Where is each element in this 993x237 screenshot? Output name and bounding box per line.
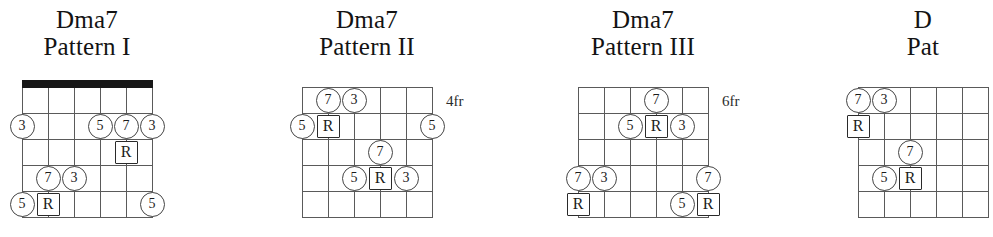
fret-line <box>858 139 989 140</box>
interval-marker[interactable]: 5 <box>140 192 165 217</box>
chord-diagram-1: Dma7Pattern I3573R735R5 <box>0 0 174 237</box>
chord-name: Dma7 <box>0 6 174 33</box>
interval-marker[interactable]: 3 <box>670 114 695 139</box>
interval-marker[interactable]: 3 <box>872 88 897 113</box>
fret-line <box>22 113 153 114</box>
interval-marker[interactable]: 5 <box>618 114 643 139</box>
fret-position-label: 6fr <box>722 93 740 110</box>
fret-line <box>858 87 989 88</box>
fret-position-label: 4fr <box>446 93 464 110</box>
root-marker[interactable]: R <box>697 193 720 216</box>
string-line <box>630 87 631 217</box>
fret-grid: 3573R735R5 <box>22 87 152 217</box>
fret-line <box>578 139 709 140</box>
nut-bar <box>22 80 153 88</box>
fret-line <box>302 87 433 88</box>
root-marker[interactable]: R <box>645 115 668 138</box>
string-line <box>302 87 303 217</box>
pattern-label: Pattern II <box>280 33 454 60</box>
interval-marker[interactable]: 5 <box>290 114 315 139</box>
string-line <box>988 87 989 217</box>
interval-marker[interactable]: 3 <box>10 114 35 139</box>
chord-diagram-4: DPat73R57R <box>836 0 993 237</box>
string-line <box>406 87 407 217</box>
interval-marker[interactable]: 5 <box>10 192 35 217</box>
chord-name: Dma7 <box>556 6 730 33</box>
fret-line <box>22 217 153 218</box>
interval-marker[interactable]: 7 <box>368 140 393 165</box>
root-marker[interactable]: R <box>37 193 60 216</box>
interval-marker[interactable]: 7 <box>696 166 721 191</box>
string-line <box>604 87 605 217</box>
fret-line <box>302 113 433 114</box>
pattern-label: Pattern I <box>0 33 174 60</box>
fret-grid: 735R575R3 <box>302 87 432 217</box>
fret-line <box>302 191 433 192</box>
root-marker[interactable]: R <box>115 141 138 164</box>
interval-marker[interactable]: 3 <box>394 166 419 191</box>
fret-line <box>578 191 709 192</box>
diagram-title: DPat <box>836 0 993 60</box>
pattern-label: Pattern III <box>556 33 730 60</box>
interval-marker[interactable]: 5 <box>420 114 445 139</box>
fret-line <box>302 165 433 166</box>
fret-line <box>858 113 989 114</box>
interval-marker[interactable]: 7 <box>36 166 61 191</box>
fret-line <box>858 217 989 218</box>
interval-marker[interactable]: 7 <box>566 166 591 191</box>
pattern-label: Pat <box>836 33 993 60</box>
fret-line <box>22 191 153 192</box>
interval-marker[interactable]: 3 <box>140 114 165 139</box>
interval-marker[interactable]: 7 <box>846 88 871 113</box>
chord-diagram-3: Dma7Pattern III75R3737R5R6fr <box>556 0 730 237</box>
root-marker[interactable]: R <box>369 167 392 190</box>
diagram-title: Dma7Pattern III <box>556 0 730 60</box>
interval-marker[interactable]: 3 <box>342 88 367 113</box>
root-marker[interactable]: R <box>567 193 590 216</box>
interval-marker[interactable]: 3 <box>62 166 87 191</box>
root-marker[interactable]: R <box>899 167 922 190</box>
string-line <box>962 87 963 217</box>
diagram-title: Dma7Pattern II <box>280 0 454 60</box>
fret-line <box>22 139 153 140</box>
fret-line <box>858 165 989 166</box>
chord-name: Dma7 <box>280 6 454 33</box>
diagram-title: Dma7Pattern I <box>0 0 174 60</box>
fret-line <box>302 217 433 218</box>
interval-marker[interactable]: 7 <box>316 88 341 113</box>
chord-diagram-2: Dma7Pattern II735R575R34fr <box>280 0 454 237</box>
fret-line <box>858 191 989 192</box>
interval-marker[interactable]: 5 <box>670 192 695 217</box>
interval-marker[interactable]: 3 <box>592 166 617 191</box>
interval-marker[interactable]: 5 <box>342 166 367 191</box>
root-marker[interactable]: R <box>847 115 870 138</box>
interval-marker[interactable]: 7 <box>898 140 923 165</box>
string-line <box>100 87 101 217</box>
fret-line <box>578 217 709 218</box>
interval-marker[interactable]: 5 <box>872 166 897 191</box>
fret-grid: 75R3737R5R <box>578 87 708 217</box>
fret-line <box>578 113 709 114</box>
fret-line <box>578 165 709 166</box>
fret-line <box>578 87 709 88</box>
fret-line <box>22 165 153 166</box>
string-line <box>74 87 75 217</box>
root-marker[interactable]: R <box>317 115 340 138</box>
interval-marker[interactable]: 7 <box>114 114 139 139</box>
interval-marker[interactable]: 5 <box>88 114 113 139</box>
fret-grid: 73R57R <box>858 87 988 217</box>
string-line <box>936 87 937 217</box>
interval-marker[interactable]: 7 <box>644 88 669 113</box>
chord-name: D <box>836 6 993 33</box>
string-line <box>432 87 433 217</box>
fret-line <box>302 139 433 140</box>
